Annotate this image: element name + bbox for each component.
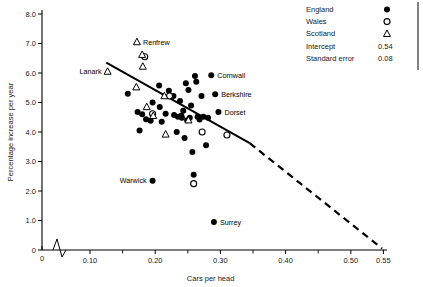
x-tick-label: 0.55 <box>376 256 391 265</box>
data-point-scotland <box>143 103 150 110</box>
data-point-england <box>125 91 131 97</box>
y-tick-label: 5.0 <box>26 98 36 107</box>
data-point-england <box>150 100 156 106</box>
data-point-england <box>203 142 209 148</box>
annotation-berkshire: Berkshire <box>221 90 251 99</box>
data-point-england <box>150 178 156 184</box>
legend-label-wales: Wales <box>306 17 327 26</box>
series-england <box>125 72 222 225</box>
x-axis-title: Cars per head <box>187 274 235 283</box>
data-point-england <box>179 115 185 121</box>
x-tick-label: 0.20 <box>148 256 163 265</box>
legend-marker-england <box>384 6 390 12</box>
annotation-cornwall: Cornwall <box>217 71 245 80</box>
data-point-england <box>182 135 188 141</box>
legend-label-scotland: Scotland <box>306 29 335 38</box>
legend-marker-scotland <box>384 30 391 37</box>
y-tick-label: 4.0 <box>26 128 36 137</box>
data-point-scotland <box>139 63 146 70</box>
scatter-plot: 01.02.03.04.05.06.07.08.000.100.200.300.… <box>0 0 423 287</box>
x-axis-ticks: 00.100.200.300.400.500.55 <box>40 246 391 265</box>
y-tick-label: 0 <box>32 246 36 255</box>
legend: EnglandWalesScotlandIntercept0.54Standar… <box>306 2 418 70</box>
y-axis-title: Percentage increase per year <box>6 82 15 181</box>
y-tick-label: 6.0 <box>26 69 36 78</box>
y-axis-ticks: 01.02.03.04.05.06.07.08.0 <box>26 10 42 255</box>
x-axis-break-icon <box>53 239 66 257</box>
legend-label-england: England <box>306 5 334 14</box>
data-point-england <box>159 119 165 125</box>
annotation-surrey: Surrey <box>220 218 242 227</box>
data-point-england <box>157 104 163 110</box>
data-point-england <box>215 109 221 115</box>
data-point-england <box>211 219 217 225</box>
annotation-warwick: Warwick <box>120 176 147 185</box>
data-point-england <box>185 87 191 93</box>
x-tick-label: 0.40 <box>278 256 293 265</box>
x-tick-label: 0.50 <box>343 256 358 265</box>
data-point-england <box>137 128 143 134</box>
y-tick-label: 2.0 <box>26 187 36 196</box>
legend-stat-value: 0.54 <box>378 42 393 51</box>
y-tick-label: 7.0 <box>26 39 36 48</box>
data-point-england <box>208 72 214 78</box>
data-point-england <box>205 115 211 121</box>
data-point-england <box>163 111 169 117</box>
data-point-england <box>139 111 145 117</box>
data-point-england <box>188 102 194 108</box>
data-point-england <box>174 129 180 135</box>
data-point-england <box>198 93 204 99</box>
annotation-lanark: Lanark <box>80 67 102 76</box>
data-point-england <box>189 149 195 155</box>
legend-marker-wales <box>384 19 390 25</box>
data-point-england <box>156 82 162 88</box>
data-point-scotland <box>133 83 140 90</box>
y-tick-label: 3.0 <box>26 157 36 166</box>
x-tick-label: 0 <box>40 254 44 263</box>
data-point-england <box>180 108 186 114</box>
legend-stat-label: Intercept <box>306 42 336 51</box>
data-point-scotland <box>133 38 140 45</box>
data-point-scotland <box>104 68 111 75</box>
annotation-renfrew: Renfrew <box>143 38 171 47</box>
axes: 01.02.03.04.05.06.07.08.000.100.200.300.… <box>6 10 391 283</box>
data-point-england <box>192 73 198 79</box>
data-point-england <box>212 91 218 97</box>
x-tick-label: 0.10 <box>83 256 98 265</box>
data-point-england <box>191 172 197 178</box>
legend-stat-label: Standard error <box>306 54 355 63</box>
y-tick-label: 8.0 <box>26 10 36 19</box>
y-tick-label: 1.0 <box>26 216 36 225</box>
data-point-wales <box>191 181 197 187</box>
x-tick-label: 0.30 <box>213 256 228 265</box>
regression-line-dashed <box>250 143 382 248</box>
data-point-wales <box>199 129 205 135</box>
data-point-england <box>177 98 183 104</box>
annotation-dorset: Dorset <box>224 108 245 117</box>
data-point-england <box>193 79 199 85</box>
data-point-england <box>183 80 189 86</box>
legend-stat-value: 0.08 <box>378 54 393 63</box>
chart-container: 01.02.03.04.05.06.07.08.000.100.200.300.… <box>0 0 423 287</box>
data-point-wales <box>224 132 230 138</box>
data-point-scotland <box>162 131 169 138</box>
